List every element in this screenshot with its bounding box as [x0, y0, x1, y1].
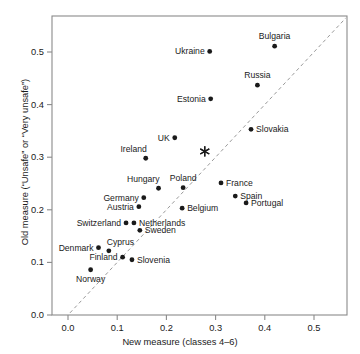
data-point[interactable]: [130, 257, 135, 262]
data-point-label: UK: [158, 133, 170, 142]
data-point-label: Cyprus: [107, 238, 134, 247]
data-point[interactable]: [136, 204, 141, 209]
data-point-label: Russia: [244, 72, 270, 81]
data-point-label: Switzerland: [77, 219, 121, 228]
y-axis-tick-label: 0.3: [20, 152, 44, 162]
data-point[interactable]: [88, 267, 93, 272]
y-axis-tick-label: 0.5: [20, 47, 44, 57]
data-point-label: Portugal: [251, 199, 283, 208]
data-point[interactable]: [172, 135, 177, 140]
y-axis-tick-label: 0.1: [20, 257, 44, 267]
data-point-label: Ireland: [120, 145, 146, 154]
y-axis-tick-label: 0.4: [20, 100, 44, 110]
data-point[interactable]: [120, 255, 125, 260]
data-point-label: Sweden: [145, 226, 176, 235]
data-point-label: Austria: [107, 202, 134, 211]
data-point[interactable]: [249, 127, 254, 132]
data-point-label: Ukraine: [175, 47, 205, 56]
data-point-label: Finland: [89, 253, 117, 262]
x-axis-tick-label: 0.5: [308, 323, 321, 333]
data-point-label: France: [226, 179, 253, 188]
asterisk-marker[interactable]: [200, 146, 209, 156]
data-point[interactable]: [137, 228, 142, 233]
x-axis-tick-label: 0.1: [111, 323, 124, 333]
data-point-label: Estonia: [177, 95, 206, 104]
data-point-label: Denmark: [59, 243, 94, 252]
data-point-label: Norway: [76, 275, 105, 284]
data-point[interactable]: [272, 44, 277, 49]
plot-frame: [52, 16, 347, 315]
data-point-label: Poland: [170, 174, 197, 183]
data-point[interactable]: [180, 206, 185, 211]
data-point-label: Slovenia: [137, 255, 170, 264]
data-point[interactable]: [207, 49, 212, 54]
data-point[interactable]: [143, 156, 148, 161]
y-axis-tick-label: 0.0: [20, 310, 44, 320]
data-point[interactable]: [255, 83, 260, 88]
data-point[interactable]: [96, 245, 101, 250]
x-axis-tick-label: 0.2: [160, 323, 173, 333]
data-point[interactable]: [124, 221, 129, 226]
data-point[interactable]: [132, 221, 137, 226]
data-point[interactable]: [244, 201, 249, 206]
scatter-plot-figure: New measure (classes 4–6) Old measure (“…: [0, 0, 360, 354]
y-axis-tick-label: 0.2: [20, 205, 44, 215]
x-axis-tick-label: 0.4: [258, 323, 271, 333]
data-point-label: Slovakia: [256, 125, 288, 134]
x-axis-tick-label: 0.3: [209, 323, 222, 333]
x-axis-title: New measure (classes 4–6): [0, 337, 360, 347]
data-point[interactable]: [219, 181, 224, 186]
data-point-label: Bulgaria: [259, 33, 291, 42]
data-point-label: Hungary: [127, 175, 159, 184]
identity-reference-line: [66, 18, 346, 318]
data-point[interactable]: [156, 186, 161, 191]
data-point[interactable]: [141, 195, 146, 200]
data-point[interactable]: [208, 96, 213, 101]
x-axis-tick-label: 0.0: [62, 323, 75, 333]
data-point-label: Belgium: [187, 204, 218, 213]
data-point[interactable]: [181, 185, 186, 190]
data-point[interactable]: [233, 194, 238, 199]
